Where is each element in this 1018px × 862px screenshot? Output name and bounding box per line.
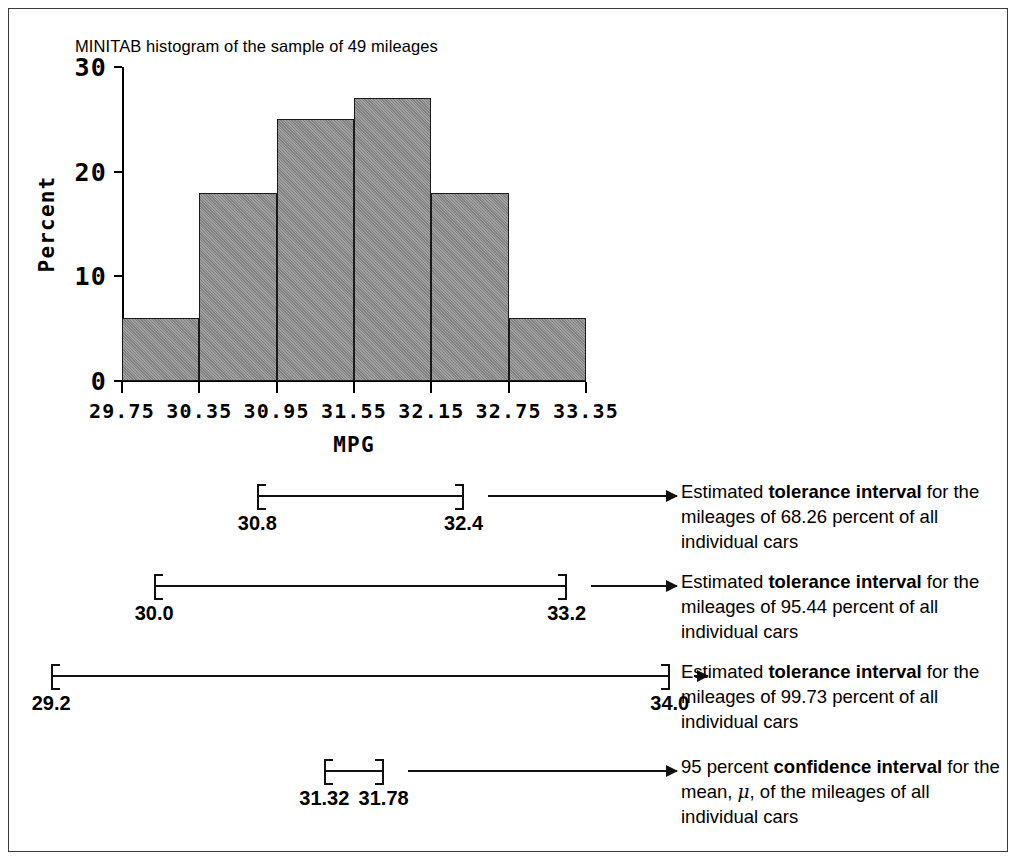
figure-panel: MINITAB histogram of the sample of 49 mi… bbox=[8, 8, 1008, 852]
interval-upper-label: 33.2 bbox=[547, 602, 586, 625]
interval-lower-label: 29.2 bbox=[32, 692, 71, 715]
interval-caption-emphasis: tolerance interval bbox=[768, 571, 921, 592]
interval-row: 31.3231.7895 percent confidence interval… bbox=[9, 754, 1009, 844]
interval-endpoint-right bbox=[558, 574, 567, 600]
interval-row: 30.033.2Estimated tolerance interval for… bbox=[9, 569, 1009, 659]
histogram-bar bbox=[431, 193, 508, 381]
interval-caption: Estimated tolerance interval for the mil… bbox=[681, 659, 1011, 734]
arrow-icon bbox=[488, 495, 677, 497]
arrow-icon bbox=[591, 585, 677, 587]
x-tick-label: 29.75 bbox=[89, 399, 155, 423]
interval-endpoint-left bbox=[154, 574, 163, 600]
x-tick bbox=[585, 382, 587, 393]
x-tick bbox=[276, 382, 278, 393]
x-tick-label: 32.15 bbox=[398, 399, 464, 423]
interval-caption-emphasis: tolerance interval bbox=[768, 481, 921, 502]
mu-symbol: μ bbox=[738, 781, 750, 802]
interval-lower-label: 30.8 bbox=[238, 512, 277, 535]
x-tick bbox=[353, 382, 355, 393]
arrow-icon bbox=[408, 770, 677, 772]
interval-upper-label: 31.78 bbox=[359, 787, 409, 810]
y-tick bbox=[114, 66, 122, 68]
x-tick-label: 32.75 bbox=[476, 399, 542, 423]
interval-endpoint-right bbox=[661, 664, 670, 690]
interval-endpoint-right bbox=[455, 484, 464, 510]
interval-lower-label: 30.0 bbox=[135, 602, 174, 625]
x-axis-title: MPG bbox=[333, 433, 375, 457]
x-tick bbox=[198, 382, 200, 393]
y-tick bbox=[114, 275, 122, 277]
interval-endpoint-left bbox=[51, 664, 60, 690]
interval-caption: Estimated tolerance interval for the mil… bbox=[681, 569, 1011, 644]
interval-line bbox=[257, 495, 463, 497]
interval-caption: 95 percent confidence interval for the m… bbox=[681, 754, 1011, 829]
y-tick-label: 20 bbox=[74, 159, 107, 184]
interval-row: 30.832.4Estimated tolerance interval for… bbox=[9, 479, 1009, 569]
interval-caption-emphasis: confidence interval bbox=[774, 756, 943, 777]
x-tick bbox=[508, 382, 510, 393]
histogram-bar bbox=[277, 119, 354, 381]
histogram-title: MINITAB histogram of the sample of 49 mi… bbox=[75, 37, 438, 56]
x-tick bbox=[430, 382, 432, 393]
interval-row: 29.234.0Estimated tolerance interval for… bbox=[9, 659, 1009, 749]
interval-caption-emphasis: tolerance interval bbox=[768, 661, 921, 682]
x-tick-label: 31.55 bbox=[321, 399, 387, 423]
histogram-bar bbox=[122, 318, 199, 381]
interval-caption: Estimated tolerance interval for the mil… bbox=[681, 479, 1011, 554]
histogram-bar bbox=[354, 98, 431, 381]
interval-endpoint-left bbox=[257, 484, 266, 510]
y-tick bbox=[114, 171, 122, 173]
interval-endpoint-left bbox=[324, 759, 333, 785]
y-tick-label: 30 bbox=[74, 55, 107, 80]
x-tick bbox=[121, 382, 123, 393]
interval-endpoint-right bbox=[375, 759, 384, 785]
histogram-bar bbox=[509, 318, 586, 381]
interval-upper-label: 32.4 bbox=[444, 512, 483, 535]
x-tick-label: 30.95 bbox=[244, 399, 310, 423]
x-tick-label: 30.35 bbox=[166, 399, 232, 423]
interval-line bbox=[154, 585, 566, 587]
histogram-bar bbox=[199, 193, 276, 381]
histogram-plot-area bbox=[122, 67, 584, 381]
y-tick-label: 10 bbox=[74, 264, 107, 289]
y-tick-label: 0 bbox=[91, 369, 107, 394]
interval-line bbox=[51, 675, 670, 677]
y-axis-title: Percent bbox=[35, 176, 59, 273]
interval-lower-label: 31.32 bbox=[299, 787, 349, 810]
x-tick-label: 33.35 bbox=[553, 399, 619, 423]
